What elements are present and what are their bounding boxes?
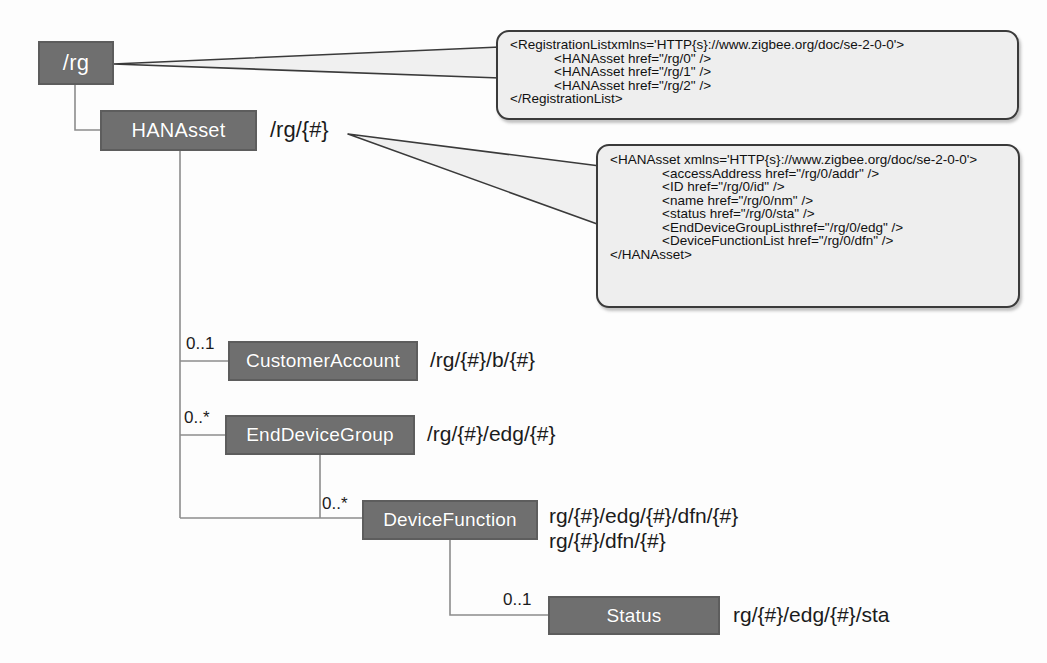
callout-tail-hanasset	[348, 134, 600, 225]
node-label: CustomerAccount	[246, 350, 400, 372]
path-label-status: rg/{#}/edg/{#}/sta	[733, 603, 889, 627]
multiplicity-customeraccount: 0..1	[186, 334, 214, 354]
multiplicity-status: 0..1	[503, 590, 531, 610]
node-label: HANAsset	[132, 119, 226, 142]
callout-line: <EndDeviceGroupListhref="/rg/0/edg" />	[610, 221, 1008, 235]
callout-line: <status href="/rg/0/sta" />	[610, 207, 1008, 221]
node-hanasset[interactable]: HANAsset	[100, 110, 257, 151]
callout-tail-registration	[113, 47, 500, 78]
path-label-devicefunction-2: rg/{#}/dfn/{#}	[549, 529, 666, 553]
callout-line: <DeviceFunctionList href="/rg/0/dfn" />	[610, 234, 1008, 248]
node-label: EndDeviceGroup	[246, 424, 394, 446]
node-status[interactable]: Status	[548, 596, 720, 635]
callout-line: <RegistrationListxmlns='HTTP{s}://www.zi…	[510, 38, 1007, 52]
path-label-hanasset: /rg/{#}	[270, 118, 329, 143]
diagram-canvas: <RegistrationListxmlns='HTTP{s}://www.zi…	[0, 0, 1047, 663]
callout-line: <ID href="/rg/0/id" />	[610, 180, 1008, 194]
node-label: DeviceFunction	[383, 509, 517, 531]
callout-line: </HANAsset>	[610, 248, 1008, 262]
callout-hanasset-detail: <HANAsset xmlns='HTTP{s}://www.zigbee.or…	[596, 144, 1020, 308]
path-label-devicefunction-1: rg/{#}/edg/{#}/dfn/{#}	[549, 504, 738, 528]
node-rg[interactable]: /rg	[38, 41, 114, 85]
callout-line: <accessAddress href="/rg/0/addr" />	[610, 167, 1008, 181]
node-label: /rg	[63, 50, 89, 76]
callout-line: <HANAsset href="/rg/0" />	[510, 52, 1007, 66]
callout-line: <HANAsset xmlns='HTTP{s}://www.zigbee.or…	[610, 153, 1008, 167]
path-label-customeraccount: /rg/{#}/b/{#}	[430, 348, 535, 372]
node-enddevicegroup[interactable]: EndDeviceGroup	[225, 415, 415, 455]
callout-line: <name href="/rg/0/nm" />	[610, 194, 1008, 208]
callout-registration-list: <RegistrationListxmlns='HTTP{s}://www.zi…	[496, 30, 1019, 120]
callout-line: <HANAsset href="/rg/2" />	[510, 79, 1007, 93]
multiplicity-devicefunction: 0..*	[322, 494, 348, 514]
path-label-enddevicegroup: /rg/{#}/edg/{#}	[427, 422, 555, 446]
node-customeraccount[interactable]: CustomerAccount	[228, 341, 418, 381]
node-devicefunction[interactable]: DeviceFunction	[362, 500, 538, 540]
node-label: Status	[606, 605, 661, 627]
callout-line: <HANAsset href="/rg/1" />	[510, 65, 1007, 79]
callout-line: </RegistrationList>	[510, 92, 1007, 106]
multiplicity-enddevicegroup: 0..*	[184, 408, 210, 428]
